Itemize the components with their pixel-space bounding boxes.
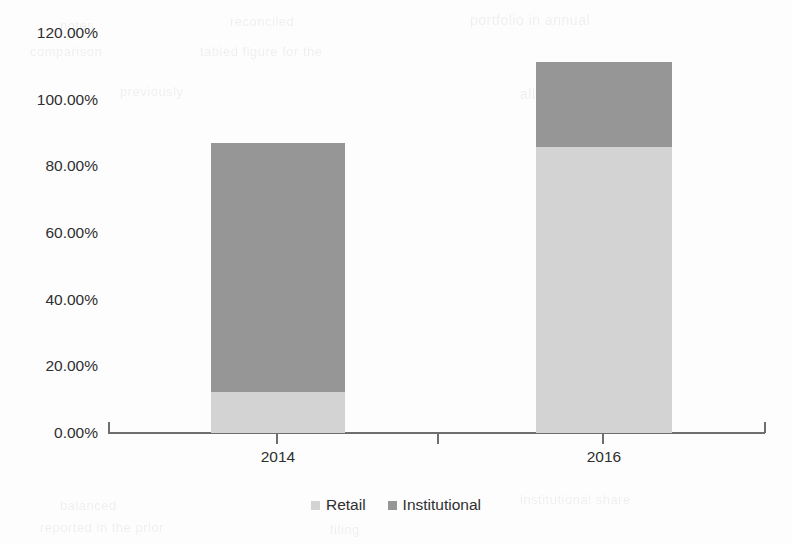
x-axis-tick-start — [108, 422, 110, 433]
y-axis-tick-label-40: 40.00% — [45, 292, 98, 308]
legend-item-institutional[interactable]: Institutional — [388, 496, 481, 514]
bar-2016[interactable] — [536, 33, 672, 433]
y-axis-tick-label-120: 120.00% — [37, 25, 98, 41]
y-axis-tick-label-0: 0.00% — [54, 425, 98, 441]
legend-label-retail: Retail — [326, 496, 366, 514]
legend-item-retail[interactable]: Retail — [311, 496, 366, 514]
chart-legend: Retail Institutional — [0, 496, 792, 514]
bar-segment-2014-institutional[interactable] — [211, 143, 345, 392]
y-axis-tick-label-100: 100.00% — [37, 92, 98, 108]
x-axis-tick-2014 — [276, 433, 278, 444]
bar-segment-2014-retail[interactable] — [211, 392, 345, 433]
bar-segment-2016-institutional[interactable] — [536, 62, 672, 147]
x-axis-tick-2016 — [602, 433, 604, 444]
x-axis-category-label-2016: 2016 — [542, 448, 666, 466]
bar-2014[interactable] — [211, 33, 345, 433]
y-axis-tick-label-20: 20.00% — [45, 358, 98, 374]
chart-container: notesreconciledportfolio in annualcompar… — [0, 0, 792, 544]
y-axis-labels: 120.00% 100.00% 80.00% 60.00% 40.00% 20.… — [0, 0, 98, 544]
x-axis-tick-end — [764, 422, 766, 433]
y-axis-tick-label-80: 80.00% — [45, 158, 98, 174]
x-axis-category-label-2014: 2014 — [216, 448, 340, 466]
legend-label-institutional: Institutional — [403, 496, 481, 514]
plot-area: 120.00% 100.00% 80.00% 60.00% 40.00% 20.… — [0, 0, 792, 544]
y-axis-tick-label-60: 60.00% — [45, 225, 98, 241]
legend-swatch-institutional-icon — [388, 501, 397, 510]
bar-segment-2016-retail[interactable] — [536, 147, 672, 433]
legend-swatch-retail-icon — [311, 501, 320, 510]
x-axis-tick-mid — [437, 433, 439, 444]
